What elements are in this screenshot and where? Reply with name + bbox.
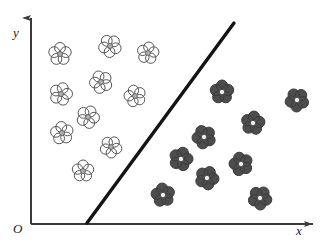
flower-center bbox=[57, 51, 62, 56]
flower-center bbox=[294, 97, 299, 102]
y-axis-label: y bbox=[13, 26, 19, 39]
light-flower-marker bbox=[77, 106, 99, 128]
light-flower-series bbox=[49, 35, 159, 181]
dark-flower-marker bbox=[170, 147, 193, 170]
light-flower-marker bbox=[124, 85, 145, 106]
flower-center bbox=[250, 120, 255, 125]
flower-center bbox=[109, 145, 114, 150]
figure-canvas: y x O bbox=[0, 0, 321, 247]
flower-center bbox=[201, 134, 206, 139]
origin-label: O bbox=[13, 222, 22, 235]
light-flower-marker bbox=[72, 160, 93, 181]
light-flower-marker bbox=[99, 35, 121, 57]
dark-flower-marker bbox=[229, 152, 252, 175]
flower-center bbox=[178, 156, 183, 161]
dark-flower-marker bbox=[242, 111, 265, 134]
flower-center bbox=[160, 192, 165, 197]
flower-center bbox=[133, 94, 138, 99]
dark-flower-marker bbox=[151, 183, 174, 206]
dark-flower-marker bbox=[285, 89, 308, 112]
flower-center bbox=[238, 161, 243, 166]
light-flower-marker bbox=[51, 122, 73, 144]
plot-svg bbox=[0, 0, 321, 247]
flower-center bbox=[146, 51, 151, 56]
light-flower-marker bbox=[51, 83, 73, 105]
flower-center bbox=[107, 43, 112, 48]
flower-center bbox=[98, 79, 103, 84]
light-flower-marker bbox=[138, 42, 159, 63]
dark-flower-marker bbox=[248, 187, 271, 210]
flower-center bbox=[58, 91, 63, 96]
dark-flower-series bbox=[151, 80, 308, 210]
flower-center bbox=[219, 89, 224, 94]
flower-center bbox=[85, 114, 90, 119]
flower-center bbox=[81, 169, 86, 174]
light-flower-marker bbox=[100, 137, 121, 158]
dark-flower-marker bbox=[192, 126, 215, 149]
light-flower-marker bbox=[90, 71, 112, 93]
flower-center bbox=[257, 195, 262, 200]
light-flower-marker bbox=[49, 43, 71, 65]
x-axis-label: x bbox=[296, 224, 302, 237]
dark-flower-marker bbox=[196, 167, 219, 190]
flower-center bbox=[59, 130, 64, 135]
dark-flower-marker bbox=[210, 80, 233, 103]
flower-center bbox=[204, 175, 209, 180]
